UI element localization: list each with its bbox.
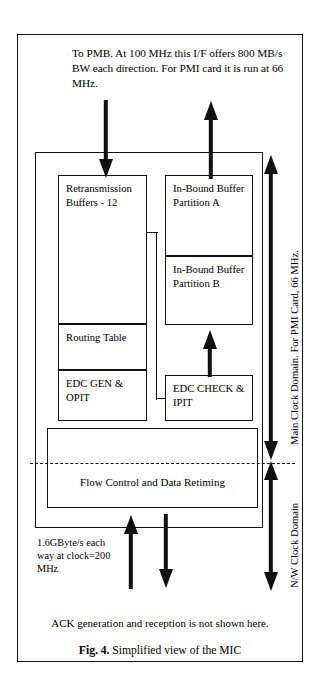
network-bandwidth-note: 1.6GByte/s each way at clock=200 MHz [37, 536, 122, 576]
arrow-network-outbound-down-icon [158, 514, 174, 588]
figure-mic-diagram: To PMB. At 100 MHz this I/F offers 800 M… [0, 0, 322, 698]
arrow-edccheck-to-inbound-buffer-icon [202, 330, 218, 377]
connector-retrans-to-edccheck-segment-2 [156, 232, 157, 400]
block-edc-gen-opit: EDC GEN & OPIT [58, 370, 147, 421]
figure-caption: Fig. 4. Simplified view of the MIC [17, 644, 303, 657]
figure-caption-label: Fig. 4. [79, 644, 110, 657]
block-flow-control-data-retiming: Flow Control and Data Retiming [47, 428, 258, 508]
connector-retrans-to-edccheck-segment-3 [156, 398, 166, 399]
arrow-pmb-inbound-down-icon [98, 100, 114, 178]
label-main-clock-domain: Main Clock Domain. For PMI Card, 66 MHz. [289, 250, 300, 445]
arrow-network-clock-domain-span-icon [263, 461, 279, 591]
block-retransmission-buffers-label: Retransmission Buffers - 12 [66, 182, 132, 208]
block-inbound-buffer-partition-b-label: In-Bound Buffer Partition B [173, 263, 244, 289]
pmb-interface-note: To PMB. At 100 MHz this I/F offers 800 M… [72, 46, 287, 91]
block-inbound-buffer-partition-a-label: In-Bound Buffer Partition A [173, 182, 244, 208]
block-flow-control-data-retiming-label: Flow Control and Data Retiming [80, 475, 225, 489]
arrow-pmb-outbound-up-icon [203, 101, 219, 179]
block-edc-check-ipit: EDC CHECK & IPIT [165, 375, 253, 421]
block-inbound-buffer-partition-a: In-Bound Buffer Partition A [165, 175, 253, 256]
arrow-network-inbound-up-icon [123, 515, 139, 589]
block-routing-table-label: Routing Table [66, 331, 127, 343]
arrow-main-clock-domain-span-icon [263, 155, 279, 460]
block-edc-check-ipit-label: EDC CHECK & IPIT [173, 382, 244, 408]
block-inbound-buffer-partition-b: In-Bound Buffer Partition B [165, 256, 253, 325]
clock-domain-divider [30, 463, 295, 464]
block-routing-table: Routing Table [58, 324, 147, 370]
ack-note: ACK generation and reception is not show… [17, 617, 303, 629]
block-retransmission-buffers: Retransmission Buffers - 12 [58, 175, 147, 324]
figure-caption-text: Simplified view of the MIC [112, 644, 241, 657]
label-network-clock-domain: N/W Clock Domain [289, 503, 300, 588]
block-edc-gen-opit-label: EDC GEN & OPIT [66, 377, 123, 403]
